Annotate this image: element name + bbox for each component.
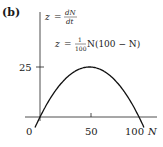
svg-text:=: = [64, 39, 72, 49]
y-tick-label-25: 25 [19, 62, 32, 73]
panel-label: (b) [2, 6, 20, 19]
x-tick-label-50: 50 [85, 126, 98, 137]
svg-text:dN: dN [65, 9, 76, 17]
svg-text:100: 100 [75, 45, 87, 52]
x-tick-label-100: 100 [125, 126, 144, 137]
x-tick-label-0: 0 [26, 126, 32, 137]
equation-annotation: z = 1 100 N(100 − N) [54, 36, 140, 52]
svg-text:z: z [54, 39, 60, 49]
svg-text:dt: dt [66, 18, 73, 26]
svg-text:z: z [44, 12, 50, 22]
svg-text:1: 1 [78, 36, 82, 43]
curve-line [35, 67, 144, 128]
svg-text:=: = [54, 12, 62, 22]
y-axis-label: z = dN dt [44, 9, 77, 26]
logistic-growth-chart: (b) 25 0 50 100 N z = dN dt z = 1 100 N(… [0, 0, 163, 147]
x-axis-label: N [147, 126, 158, 137]
svg-text:N(100 − N): N(100 − N) [87, 39, 140, 49]
